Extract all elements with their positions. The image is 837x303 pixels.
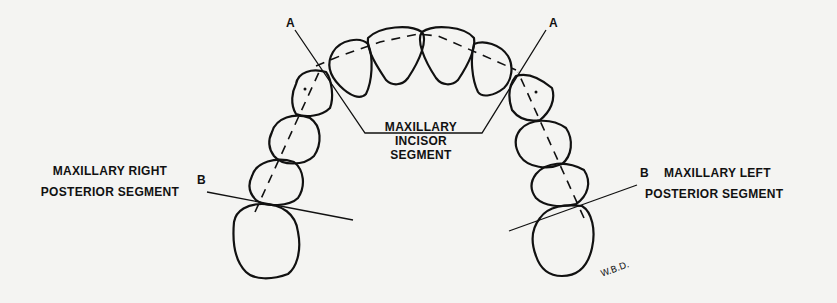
left-posterior-segment-line-2: POSTERIOR SEGMENT <box>645 187 783 201</box>
incisor-segment-label: MAXILLARY INCISOR SEGMENT <box>372 120 470 162</box>
line-a-right <box>295 30 420 133</box>
dashed-axis-right-segment <box>255 70 320 212</box>
tooth-first-molar-right <box>234 204 300 278</box>
incisor-segment-line-1: MAXILLARY <box>372 120 470 134</box>
point-b-left-label: B <box>197 173 206 187</box>
tooth-canine-left <box>509 75 553 121</box>
canine-cusp-dot-left <box>535 91 538 94</box>
tooth-canine-right <box>292 71 332 117</box>
dashed-axis-left-segment <box>518 72 584 218</box>
right-posterior-line-1: MAXILLARY RIGHT <box>26 164 194 178</box>
tooth-central-incisor-right <box>368 27 424 84</box>
right-posterior-line-2: POSTERIOR SEGMENT <box>26 185 194 199</box>
point-a-left-label: A <box>286 16 295 30</box>
canine-cusp-dot-right <box>304 88 307 91</box>
tooth-lateral-incisor-right <box>329 40 371 97</box>
point-b-right-label: B <box>640 166 649 180</box>
left-posterior-segment-line-1: MAXILLARY LEFT <box>664 166 771 180</box>
tooth-first-molar-left <box>533 205 594 276</box>
point-a-right-label: A <box>549 16 558 30</box>
incisor-segment-line-3: SEGMENT <box>372 148 470 162</box>
line-b-left <box>509 185 637 231</box>
right-posterior-segment-label: MAXILLARY RIGHT POSTERIOR SEGMENT <box>26 164 194 199</box>
incisor-segment-line-2: INCISOR <box>372 134 470 148</box>
line-b-right <box>207 192 353 220</box>
tooth-first-premolar-right <box>269 116 319 164</box>
tooth-second-premolar-left <box>532 164 589 206</box>
tooth-lateral-incisor-left <box>472 43 512 96</box>
